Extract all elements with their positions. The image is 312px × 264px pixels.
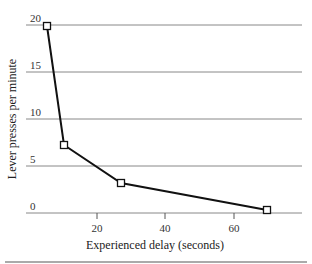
chart: 20 15 10 5 0 20 40 60 Experienced delay … (0, 0, 312, 264)
svg-text:0: 0 (30, 200, 36, 212)
y-axis-label: Lever presses per minute (5, 59, 19, 179)
svg-text:20: 20 (30, 12, 42, 24)
x-axis-label: Experienced delay (seconds) (86, 238, 224, 252)
svg-text:20: 20 (92, 222, 104, 234)
x-ticks (97, 213, 234, 219)
marker-square (61, 142, 68, 149)
gridlines (26, 25, 302, 213)
svg-text:60: 60 (229, 222, 241, 234)
data-markers (44, 23, 271, 214)
svg-text:40: 40 (160, 222, 172, 234)
marker-square (44, 23, 51, 30)
svg-text:15: 15 (30, 59, 42, 71)
y-tick-labels: 20 15 10 5 0 (30, 12, 42, 212)
marker-square (118, 180, 125, 187)
svg-text:5: 5 (30, 153, 36, 165)
data-line (47, 26, 267, 210)
x-tick-labels: 20 40 60 (92, 222, 241, 234)
marker-square (264, 207, 271, 214)
svg-text:10: 10 (30, 106, 42, 118)
